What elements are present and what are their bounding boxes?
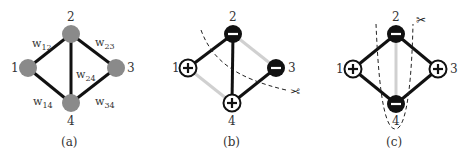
node-1-positive — [345, 61, 362, 78]
node-label-2: 2 — [67, 10, 75, 24]
node-label-1: 1 — [336, 62, 344, 76]
weight-label-w14: w14 — [33, 95, 53, 110]
node-label-4: 4 — [67, 114, 75, 128]
node-label-4: 4 — [228, 114, 236, 128]
graph-cut-figure: 1 2 3 4 w12 w23 w24 w14 w34 (a) ✂ — [0, 0, 466, 159]
node-label-3: 3 — [288, 61, 296, 75]
node-label-1: 1 — [172, 61, 180, 75]
node-3-positive — [430, 61, 447, 78]
node-label-3: 3 — [127, 61, 135, 75]
scissors-icon: ✂ — [416, 13, 426, 27]
node-1-positive — [180, 60, 197, 77]
edge-2-4 — [232, 34, 233, 103]
node-2-negative — [387, 25, 405, 43]
weight-label-w24: w24 — [76, 68, 96, 83]
caption-a: (a) — [61, 135, 78, 149]
node-3-negative — [267, 59, 285, 77]
node-1 — [19, 59, 37, 77]
node-label-2: 2 — [229, 10, 237, 24]
caption-b: (b) — [223, 135, 240, 149]
node-2-negative — [224, 25, 242, 43]
weight-label-w23: w23 — [95, 36, 115, 51]
node-4-positive — [224, 95, 241, 112]
weight-label-w34: w34 — [95, 95, 115, 110]
node-2 — [62, 25, 80, 43]
scissors-icon: ✂ — [290, 84, 300, 98]
node-4-negative — [387, 95, 405, 113]
node-3 — [107, 59, 125, 77]
node-4 — [62, 94, 80, 112]
weight-label-w12: w12 — [32, 37, 52, 52]
node-label-1: 1 — [11, 61, 19, 75]
panel-b: ✂ 1 2 3 4 (b) — [172, 10, 300, 149]
panel-c: ✂ 1 2 3 4 (c) — [336, 10, 458, 149]
node-label-2: 2 — [392, 10, 400, 24]
node-label-4: 4 — [392, 114, 400, 128]
caption-c: (c) — [386, 135, 402, 149]
panel-a: 1 2 3 4 w12 w23 w24 w14 w34 (a) — [11, 10, 135, 149]
node-label-3: 3 — [450, 62, 458, 76]
